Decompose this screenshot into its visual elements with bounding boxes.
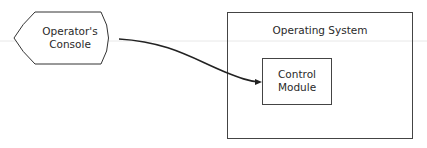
connector-arrow <box>119 39 259 82</box>
module-label: Control Module <box>262 68 332 94</box>
arrowhead-icon <box>255 79 262 85</box>
module-label-line1: Control <box>262 68 332 81</box>
console-label-line2: Console <box>40 38 100 51</box>
console-label: Operator's Console <box>40 25 100 51</box>
os-label: Operating System <box>227 24 413 37</box>
module-label-line2: Module <box>262 81 332 94</box>
console-label-line1: Operator's <box>40 25 100 38</box>
diagram-canvas <box>0 0 427 148</box>
